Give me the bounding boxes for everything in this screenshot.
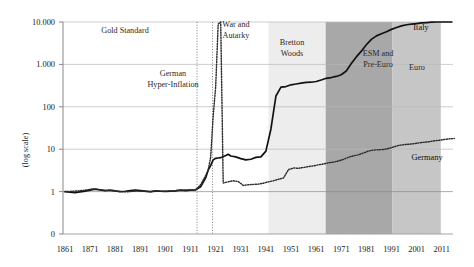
x-tick-label: 1891 xyxy=(132,245,149,254)
y-axis-title: (log scale) xyxy=(21,133,30,168)
x-tick-label: 1861 xyxy=(57,245,74,254)
x-tick-label: 1921 xyxy=(207,245,224,254)
annotation-war-and-autarky: War and Autarky xyxy=(222,20,250,40)
band-label-line: Pre-Euro xyxy=(363,60,393,69)
series-label-italy: Italy xyxy=(413,23,429,32)
annotation-line: Hyper-Inflation xyxy=(147,80,198,89)
y-tick-label: 1 xyxy=(51,188,55,197)
x-tick-label: 2001 xyxy=(408,245,425,254)
y-tick-label: 0 xyxy=(51,230,55,239)
x-tick-label: 1941 xyxy=(258,245,275,254)
y-tick-label: 100 xyxy=(42,103,55,112)
band-label-esm-pre-euro: ESM and Pre-Euro xyxy=(363,49,394,69)
annotation-line: War and xyxy=(222,20,249,29)
x-tick-label: 1911 xyxy=(182,245,198,254)
y-tick-label: 10 xyxy=(47,145,55,154)
chart-svg: 10.000 1.000 100 10 1 0 (log scale) 1861… xyxy=(0,0,474,267)
band-label-line: Bretton xyxy=(280,38,305,47)
band-label-line: ESM and xyxy=(363,49,394,58)
x-tick-label: 1951 xyxy=(283,245,300,254)
x-tick-label: 1871 xyxy=(82,245,99,254)
annotation-line: German xyxy=(160,69,186,78)
y-tick-label: 10.000 xyxy=(32,18,55,27)
x-tick-label: 1961 xyxy=(308,245,325,254)
band-label-line: Woods xyxy=(281,49,304,58)
x-tick-label: 1931 xyxy=(232,245,249,254)
series-label-germany: Germany xyxy=(411,153,443,162)
y-tick-label: 1.000 xyxy=(36,60,55,69)
x-tick-label: 2011 xyxy=(433,245,449,254)
annotation-gold-standard: Gold Standard xyxy=(101,26,149,35)
band-label-bretton-woods: Bretton Woods xyxy=(280,38,305,58)
chart-container: 10.000 1.000 100 10 1 0 (log scale) 1861… xyxy=(0,0,474,267)
x-tick-label: 1971 xyxy=(333,245,350,254)
band-euro xyxy=(393,22,441,234)
band-label-euro: Euro xyxy=(409,63,425,72)
x-tick-label: 1881 xyxy=(107,245,124,254)
annotation-line: Autarky xyxy=(223,31,251,40)
x-tick-label: 1981 xyxy=(358,245,375,254)
x-tick-label: 1901 xyxy=(157,245,174,254)
x-tick-label: 1991 xyxy=(383,245,400,254)
